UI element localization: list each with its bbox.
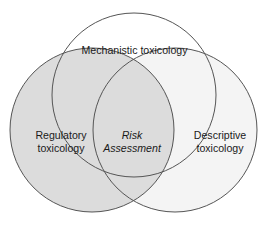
venn-diagram-figure: Mechanistic toxicology Regulatory toxico… bbox=[0, 0, 267, 225]
circle-fill-mechanistic bbox=[52, 13, 216, 177]
venn-diagram-canvas bbox=[0, 0, 267, 225]
